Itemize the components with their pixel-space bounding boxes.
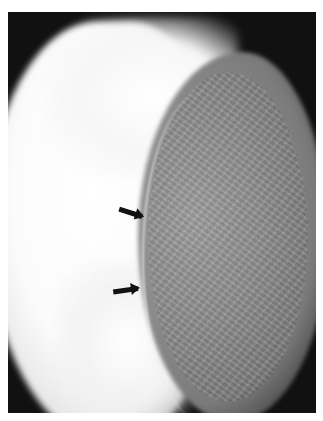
radiograph-image [8, 12, 316, 413]
